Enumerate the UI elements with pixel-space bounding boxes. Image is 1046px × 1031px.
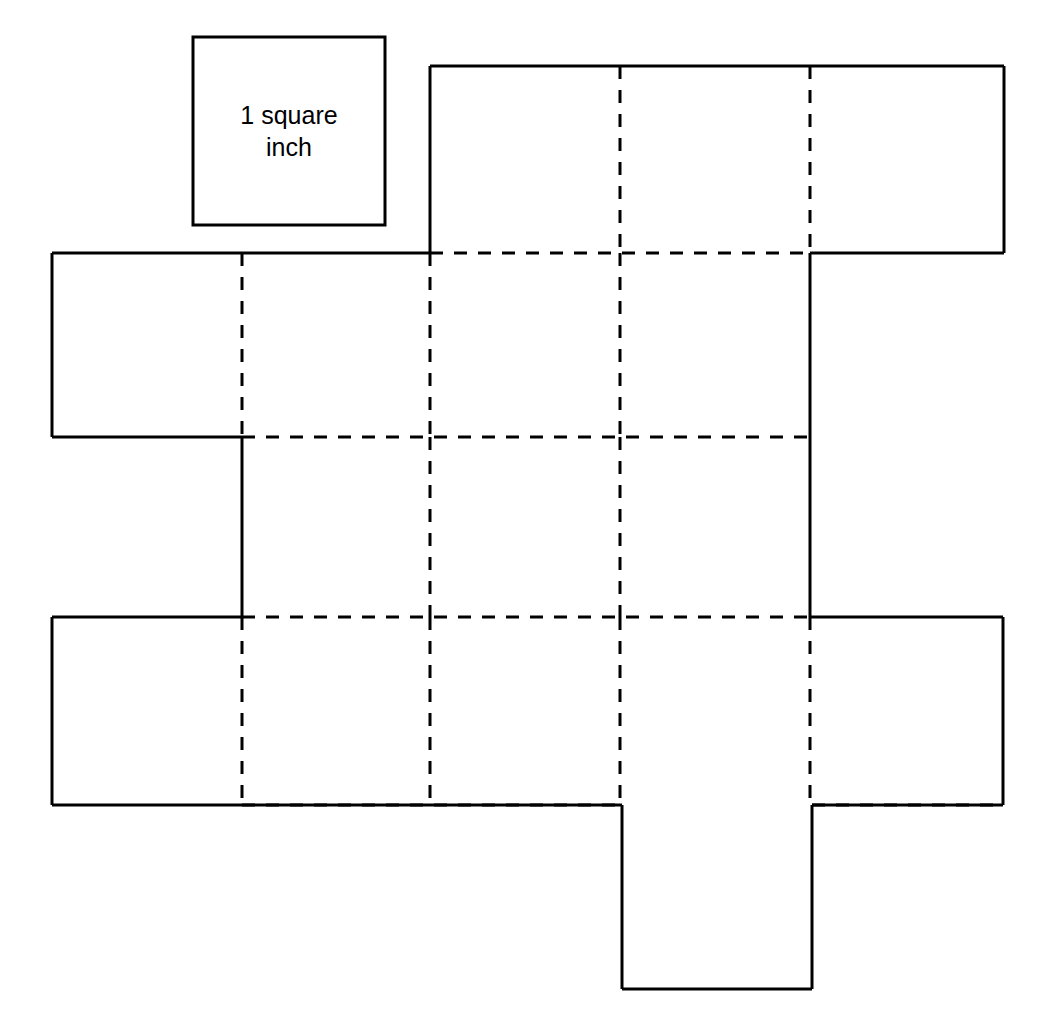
diagram-canvas: 1 square inch [0,0,1046,1031]
cut-lines-group [52,66,1004,989]
legend-square-outline [193,37,385,225]
cube-net-diagram [0,0,1046,1031]
fold-lines-group [242,66,1003,805]
